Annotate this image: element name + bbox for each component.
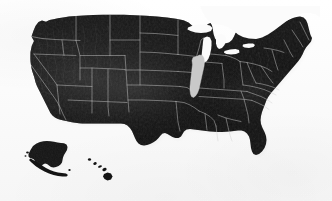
map-svg <box>0 0 332 201</box>
us-relief-map-figure: United States relief map United States o… <box>0 0 332 201</box>
hawaii-island-kauai <box>88 158 91 161</box>
terrain-shading <box>25 10 315 160</box>
hawaii-inset[interactable] <box>88 158 113 180</box>
contiguous-us-landmass <box>25 6 320 160</box>
hawaii-island-maui <box>102 167 107 171</box>
hawaii-island-oahu <box>93 161 97 165</box>
hawaii-island-big-island <box>103 173 113 181</box>
hawaii-island-molokai <box>98 165 102 168</box>
